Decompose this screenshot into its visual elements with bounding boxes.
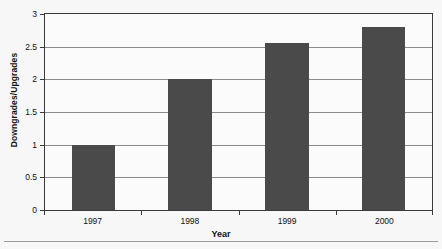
bar-cell [142, 14, 239, 210]
x-axis-tick-mark [336, 211, 337, 215]
x-axis-tick-mark [432, 211, 433, 215]
x-axis-tick-label: 1998 [141, 216, 238, 226]
x-axis-tick-label: 1999 [239, 216, 336, 226]
y-axis-tick-label: 0.5 [3, 172, 37, 182]
y-axis-tick-label: 1.5 [3, 107, 37, 117]
x-axis-tick-mark [239, 211, 240, 215]
chart-title [0, 0, 442, 5]
x-axis-tick-labels: 1997199819992000 [44, 216, 433, 226]
bar-cell [239, 14, 336, 210]
x-axis-tick-label: 2000 [336, 216, 433, 226]
bar [362, 27, 406, 210]
bar-cell [45, 14, 142, 210]
bar-series [45, 14, 432, 210]
x-axis-label: Year [0, 229, 442, 239]
y-axis-tick-label: 1 [3, 140, 37, 150]
y-axis-tick-labels: 00.511.522.53 [0, 0, 40, 249]
bar [72, 145, 116, 210]
bar [265, 43, 309, 210]
x-axis-tick-mark [44, 211, 45, 215]
bar-cell [335, 14, 432, 210]
y-axis-tick-label: 2 [3, 74, 37, 84]
bar [168, 79, 212, 210]
bar-chart-figure: Downgrades/Upgrades 00.511.522.53 199719… [0, 0, 442, 249]
x-axis-tick-mark [141, 211, 142, 215]
x-axis-tick-label: 1997 [44, 216, 141, 226]
plot-area [44, 13, 433, 211]
y-axis-tick-label: 0 [3, 205, 37, 215]
y-axis-tick-label: 3 [3, 9, 37, 19]
y-axis-tick-label: 2.5 [3, 42, 37, 52]
footer-divider [4, 241, 438, 242]
